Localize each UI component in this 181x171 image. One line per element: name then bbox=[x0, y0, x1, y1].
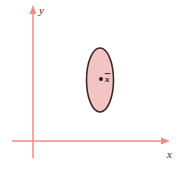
mean-point-label: x bbox=[104, 74, 110, 84]
y-axis-arrowhead bbox=[30, 5, 37, 14]
x-axis-arrowhead bbox=[161, 138, 170, 145]
x-axis-label: x bbox=[166, 148, 172, 160]
y-axis-label: y bbox=[38, 4, 44, 16]
coordinate-plot: y x x bbox=[0, 0, 181, 171]
figure-canvas: y x x bbox=[0, 0, 181, 171]
mean-point-dot bbox=[99, 77, 103, 81]
